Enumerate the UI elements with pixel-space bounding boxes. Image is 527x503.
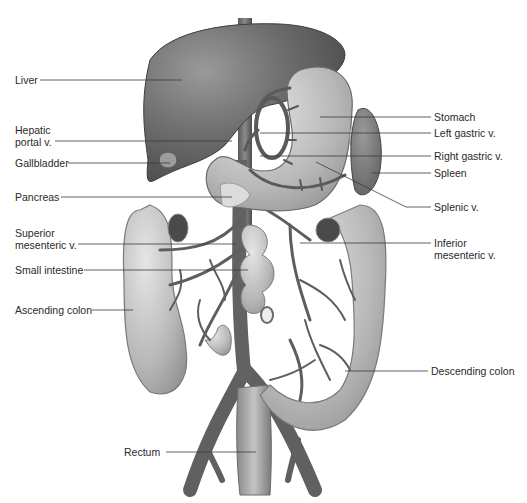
ascending-colon	[123, 205, 231, 394]
label-inferior-mesenteric-v: Inferior mesenteric v.	[434, 237, 496, 261]
hepatic-portal-diagram: Liver Hepatic portal v. Gallbladder Panc…	[0, 0, 527, 503]
label-liver: Liver	[15, 74, 38, 86]
descending-colon	[260, 205, 386, 430]
label-small-intestine: Small intestine	[15, 264, 83, 276]
label-spleen: Spleen	[434, 167, 467, 179]
label-pancreas: Pancreas	[15, 191, 59, 203]
small-intestine	[240, 225, 274, 323]
label-stomach: Stomach	[434, 111, 475, 123]
label-descending-colon: Descending colon	[431, 365, 514, 377]
gallbladder	[159, 152, 177, 168]
label-right-gastric-v: Right gastric v.	[434, 150, 503, 162]
label-hepatic-portal-v: Hepatic portal v.	[15, 124, 52, 148]
label-left-gastric-v: Left gastric v.	[434, 127, 496, 139]
label-splenic-v: Splenic v.	[434, 201, 479, 213]
label-rectum: Rectum	[124, 446, 160, 458]
label-gallbladder: Gallbladder	[15, 157, 69, 169]
label-ascending-colon: Ascending colon	[15, 304, 92, 316]
label-superior-mesenteric-v: Superior mesenteric v.	[15, 227, 77, 251]
